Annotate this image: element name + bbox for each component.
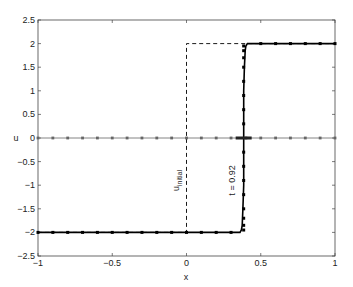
x-tick-label: 0.5	[254, 258, 267, 268]
x-tick-label: −0.5	[103, 258, 121, 268]
y-tick-label: −1	[25, 180, 35, 190]
y-tick-label: −2	[25, 227, 35, 237]
x-tick-label: 0	[184, 258, 189, 268]
y-tick-label: 1	[30, 86, 35, 96]
y-tick-label: 0.5	[22, 109, 35, 119]
chart: −1−0.500.51−2.5−2−1.5−1−0.500.511.522.5 …	[0, 0, 353, 287]
y-tick-label: −1.5	[17, 204, 35, 214]
y-tick-label: 2	[30, 39, 35, 49]
y-tick-label: 2.5	[22, 15, 35, 25]
y-axis-label: u	[13, 133, 18, 143]
annotation-label: t = 0.92	[228, 165, 238, 195]
y-tick-label: 0	[30, 133, 35, 143]
y-tick-label: −0.5	[17, 157, 35, 167]
y-tick-label: −2.5	[17, 251, 35, 261]
x-axis-label: x	[184, 272, 189, 282]
y-tick-label: 1.5	[22, 62, 35, 72]
x-tick-label: 1	[332, 258, 337, 268]
